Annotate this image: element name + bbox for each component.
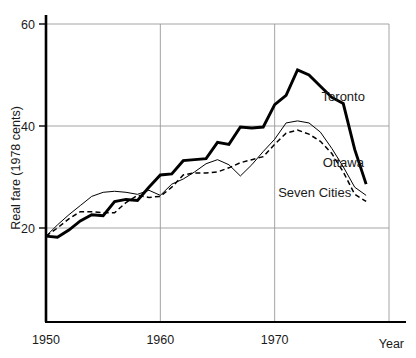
y-axis-title: Real fare (1978 cents)	[9, 106, 23, 230]
y-tick-label-40: 40	[21, 120, 35, 134]
chart-figure: 204060 195019601970 TorontoOttawaSeven C…	[0, 0, 416, 358]
line-chart: 204060 195019601970 TorontoOttawaSeven C…	[0, 0, 416, 358]
x-tick-label-1970: 1970	[261, 333, 289, 347]
x-tick-label-1950: 1950	[32, 333, 60, 347]
x-tick-label-1960: 1960	[146, 333, 174, 347]
series-label-seven-cities: Seven Cities	[278, 185, 351, 200]
series-label-ottawa: Ottawa	[323, 155, 365, 170]
y-tick-label-60: 60	[21, 18, 35, 32]
y-tick-label-20: 20	[21, 222, 35, 236]
chart-background	[0, 0, 416, 358]
x-axis-title: Year	[379, 337, 404, 351]
series-label-toronto: Toronto	[322, 89, 365, 104]
